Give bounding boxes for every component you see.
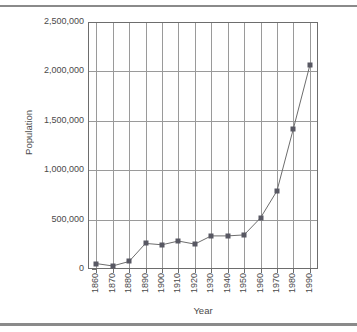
- x-axis-tick-labels: 1860187018801890190019101920193019401950…: [88, 269, 318, 309]
- x-axis-tick-label: 1940: [223, 273, 232, 293]
- data-point-marker: [225, 233, 230, 238]
- x-axis-tick-label: 1970: [272, 273, 281, 293]
- x-axis-tick-label: 1960: [256, 273, 265, 293]
- x-axis-tick-label: 1930: [206, 273, 215, 293]
- data-point-marker: [143, 241, 148, 246]
- y-axis-tick-label: 500,000: [51, 215, 84, 224]
- x-axis-tick-mark: [261, 269, 262, 273]
- y-axis-tick-label: 2,000,000: [44, 66, 84, 75]
- data-point-marker: [274, 188, 279, 193]
- data-point-marker: [159, 242, 164, 247]
- y-axis-tick-label: 1,000,000: [44, 165, 84, 174]
- x-axis-tick-label: 1880: [124, 273, 133, 293]
- data-point-marker: [94, 261, 99, 266]
- y-axis-tick-label: 1,500,000: [44, 116, 84, 125]
- x-axis-tick-mark: [293, 269, 294, 273]
- data-point-marker: [242, 232, 247, 237]
- x-axis-tick-mark: [129, 269, 130, 273]
- bottom-divider: [0, 323, 357, 326]
- x-axis-tick-label: 1910: [173, 273, 182, 293]
- y-axis-tick-label: 2,500,000: [44, 17, 84, 26]
- x-axis-tick-mark: [96, 269, 97, 273]
- x-axis-tick-mark: [277, 269, 278, 273]
- x-axis-tick-mark: [146, 269, 147, 273]
- x-axis-tick-label: 1990: [305, 273, 314, 293]
- data-point-marker: [291, 126, 296, 131]
- data-point-marker: [127, 259, 132, 264]
- x-axis-tick-mark: [113, 269, 114, 273]
- data-point-marker: [176, 239, 181, 244]
- x-axis-tick-label: 1950: [239, 273, 248, 293]
- x-axis-tick-label: 1980: [288, 273, 297, 293]
- x-axis-tick-mark: [244, 269, 245, 273]
- x-axis-tick-mark: [228, 269, 229, 273]
- y-axis-title: Population: [23, 110, 34, 155]
- x-axis-tick-label: 1900: [157, 273, 166, 293]
- data-point-marker: [258, 215, 263, 220]
- y-axis-tick-labels: 0500,0001,000,0001,500,0002,000,0002,500…: [8, 22, 84, 269]
- x-axis-tick-label: 1870: [108, 273, 117, 293]
- x-axis-tick-mark: [195, 269, 196, 273]
- x-axis-tick-mark: [178, 269, 179, 273]
- x-axis-tick-label: 1860: [91, 273, 100, 293]
- top-divider: [0, 5, 357, 7]
- y-axis-tick-label: 0: [79, 264, 84, 273]
- x-axis-tick-label: 1920: [190, 273, 199, 293]
- plot-area: [88, 22, 318, 269]
- x-axis-tick-mark: [211, 269, 212, 273]
- data-point-marker: [307, 63, 312, 68]
- x-axis-tick-label: 1890: [141, 273, 150, 293]
- data-point-marker: [192, 242, 197, 247]
- chart-figure: 0500,0001,000,0001,500,0002,000,0002,500…: [0, 0, 357, 332]
- data-point-marker: [110, 263, 115, 268]
- population-line-series: [88, 22, 318, 269]
- x-axis-tick-mark: [162, 269, 163, 273]
- data-point-marker: [209, 233, 214, 238]
- x-axis-title: Year: [88, 305, 318, 316]
- x-axis-tick-mark: [310, 269, 311, 273]
